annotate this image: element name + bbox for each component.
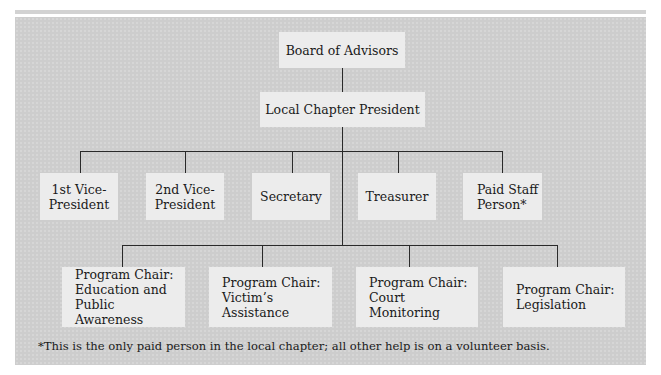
officer-box-2nd-vice-president: 2nd Vice- President xyxy=(146,173,224,220)
connector-chair-2 xyxy=(262,245,263,267)
connector-chair-1 xyxy=(122,245,123,267)
local-chapter-president-box: Local Chapter President xyxy=(260,92,425,127)
program-chair-box-legislation: Program Chair: Legislation xyxy=(503,267,625,327)
connector-officer-2 xyxy=(185,151,186,173)
program-chair-label: Program Chair: Education and Public Awar… xyxy=(75,267,185,327)
program-chair-label: Program Chair: Victim’s Assistance xyxy=(222,275,320,320)
connector-chair-3 xyxy=(409,245,410,267)
officer-box-paid-staff-person: Paid Staff Person* xyxy=(463,173,542,220)
local-chapter-president-label: Local Chapter President xyxy=(265,102,419,117)
program-chair-box-victims-assistance: Program Chair: Victim’s Assistance xyxy=(209,267,332,327)
officer-box-secretary: Secretary xyxy=(252,173,330,220)
program-chair-label: Program Chair: Court Monitoring xyxy=(369,275,467,320)
officer-label: Secretary xyxy=(260,189,322,204)
connector-board-president xyxy=(342,68,343,92)
board-of-advisors-label: Board of Advisors xyxy=(286,43,399,58)
connector-officer-1 xyxy=(80,151,81,173)
connector-officer-5 xyxy=(502,151,503,173)
connector-president-trunk xyxy=(342,127,343,246)
officer-label: Paid Staff Person* xyxy=(477,182,538,212)
connector-officer-3 xyxy=(292,151,293,173)
footnote: *This is the only paid person in the loc… xyxy=(38,339,550,353)
top-rule xyxy=(15,10,646,14)
officer-box-1st-vice-president: 1st Vice- President xyxy=(40,173,118,220)
officer-label: Treasurer xyxy=(366,189,429,204)
connector-officer-4 xyxy=(398,151,399,173)
connector-chair-4 xyxy=(557,245,558,267)
program-chair-label: Program Chair: Legislation xyxy=(516,282,614,312)
officer-label: 1st Vice- President xyxy=(49,182,110,212)
board-of-advisors-box: Board of Advisors xyxy=(279,32,405,68)
program-chair-box-education: Program Chair: Education and Public Awar… xyxy=(62,267,185,327)
officer-label: 2nd Vice- President xyxy=(155,182,216,212)
program-chair-box-court-monitoring: Program Chair: Court Monitoring xyxy=(356,267,478,327)
officer-box-treasurer: Treasurer xyxy=(358,173,436,220)
connector-chairs-bus xyxy=(122,245,558,246)
